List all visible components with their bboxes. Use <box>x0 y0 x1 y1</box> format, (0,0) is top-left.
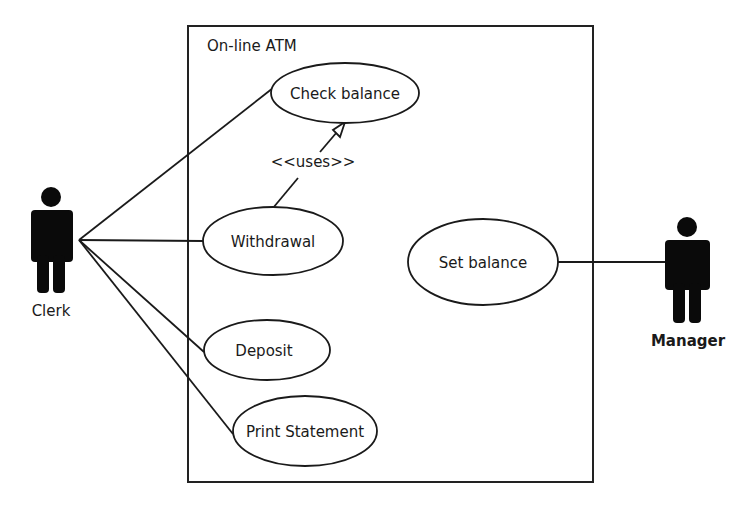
use-case-label: Set balance <box>439 254 527 272</box>
association-clerk-deposit <box>79 240 204 352</box>
use-case-label: Check balance <box>290 85 400 103</box>
actor-label: Manager <box>651 332 726 350</box>
actor-clerk[interactable]: Clerk <box>31 187 73 320</box>
association-clerk-withdrawal <box>79 240 203 241</box>
use-case-check-balance[interactable]: Check balance <box>271 63 419 123</box>
person-icon <box>665 217 710 323</box>
uses-label: <<uses>> <box>271 153 356 171</box>
actor-manager[interactable]: Manager <box>651 217 726 350</box>
system-title: On-line ATM <box>207 37 297 55</box>
use-case-withdrawal[interactable]: Withdrawal <box>203 207 343 275</box>
use-case-label: Withdrawal <box>231 233 316 251</box>
use-case-set-balance[interactable]: Set balance <box>408 219 558 305</box>
use-case-label: Deposit <box>235 342 292 360</box>
person-icon <box>31 187 73 293</box>
actor-label: Clerk <box>32 302 71 320</box>
use-case-label: Print Statement <box>246 423 364 441</box>
use-case-deposit[interactable]: Deposit <box>204 320 330 380</box>
use-case-print-statement[interactable]: Print Statement <box>233 396 377 466</box>
use-case-diagram: On-line ATM <<uses>> Check balance Withd… <box>0 0 741 508</box>
